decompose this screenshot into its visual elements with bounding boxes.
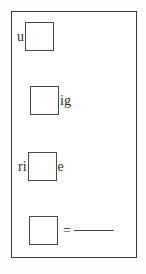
letter-fragment-before: ri <box>18 160 27 174</box>
letter-fragment-before: u <box>17 30 24 44</box>
exercise-row: u <box>17 22 55 51</box>
answer-box[interactable] <box>30 86 59 115</box>
exercise-row: ri e <box>18 152 64 181</box>
letter-fragment-after: e <box>58 160 64 174</box>
answer-box[interactable] <box>29 216 58 245</box>
page-border-frame: u ig ri e = <box>11 11 137 258</box>
answer-box[interactable] <box>28 152 57 181</box>
exercise-row: ig <box>29 86 71 115</box>
letter-fragment-after: ig <box>60 94 71 108</box>
worksheet-page: u ig ri e = <box>0 0 146 274</box>
equals-sign: = <box>63 224 71 238</box>
answer-box[interactable] <box>25 22 54 51</box>
answer-blank-line[interactable] <box>74 230 114 231</box>
exercise-row: = <box>28 216 114 245</box>
